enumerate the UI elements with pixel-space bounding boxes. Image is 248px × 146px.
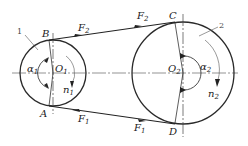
f1-label-right: F1: [133, 122, 145, 135]
radius-o1-b: [49, 40, 53, 73]
point-a-label: A: [39, 108, 47, 119]
n2-label: n2: [208, 88, 219, 101]
alpha2-label: α2: [200, 61, 212, 74]
f2-label-left: F2: [77, 22, 90, 35]
rotation-arrow-icon: [215, 79, 220, 87]
belt-tight-side: [49, 22, 175, 40]
rotation-arc-2: [205, 40, 219, 80]
part-number-1: 1: [17, 27, 22, 36]
point-c-label: C: [169, 10, 177, 21]
radius-o1-a: [49, 73, 53, 106]
radius-o2-d: [175, 73, 183, 123]
f1-label-left: F1: [77, 113, 89, 126]
o1-label: O1: [55, 63, 68, 76]
point-b-label: B: [41, 28, 49, 39]
f2-label-right: F2: [136, 10, 149, 23]
point-d-label: D: [168, 126, 177, 137]
part-number-2: 2: [219, 21, 224, 30]
rotation-arrow-icon: [70, 81, 74, 88]
o2-label: O2: [168, 63, 181, 76]
belt-drive-diagram: 1 2 B A C D α1 O1 n1 O2 α2 n2 F2 F2 F1 F…: [0, 0, 248, 146]
belt-slack-side: [49, 106, 175, 124]
alpha1-label: α1: [27, 63, 38, 76]
